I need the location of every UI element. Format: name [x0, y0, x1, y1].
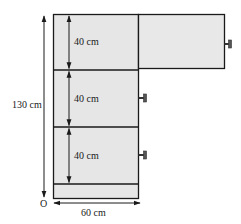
width-label: 60 cm — [81, 207, 106, 218]
open-door-panel — [139, 15, 225, 69]
door-handle-bottom-icon — [139, 151, 147, 159]
shelf-3-height-label: 40 cm — [74, 150, 99, 161]
door-handle-top-icon — [225, 40, 232, 48]
origin-label: O — [40, 198, 47, 209]
shelf-1-height-label: 40 cm — [74, 36, 99, 47]
door-handle-middle-icon — [139, 94, 147, 102]
cabinet-diagram: 130 cm 40 cm 40 cm 40 cm O 60 cm — [0, 0, 241, 224]
shelf-2-height-label: 40 cm — [74, 93, 99, 104]
total-height-label: 130 cm — [12, 99, 42, 110]
